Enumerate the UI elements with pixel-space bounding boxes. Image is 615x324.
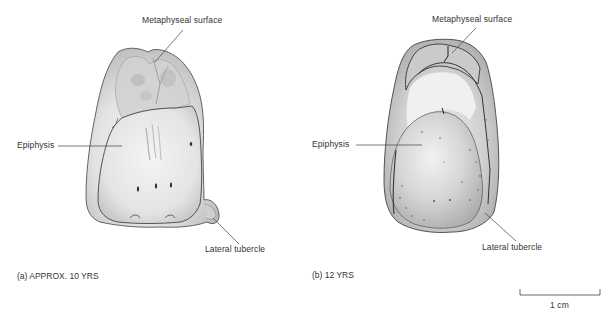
- label-metaphyseal-surface-10yrs: Metaphyseal surface: [142, 15, 222, 25]
- scale-bar: [520, 289, 600, 295]
- caption-panel-b: (b) 12 YRS: [312, 270, 354, 280]
- label-lateral-tubercle-10yrs: Lateral tubercle: [205, 244, 265, 254]
- caption-panel-a: (a) APPROX. 10 YRS: [17, 271, 99, 281]
- scale-bar-label: 1 cm: [550, 300, 569, 310]
- bone-drawing-12yrs: [384, 39, 499, 232]
- bone-drawing-10yrs: [86, 48, 219, 227]
- label-metaphyseal-surface-12yrs: Metaphyseal surface: [432, 14, 512, 24]
- label-lateral-tubercle-12yrs: Lateral tubercle: [482, 242, 542, 252]
- label-epiphysis-10yrs: Epiphysis: [17, 140, 54, 150]
- label-epiphysis-12yrs: Epiphysis: [312, 139, 349, 149]
